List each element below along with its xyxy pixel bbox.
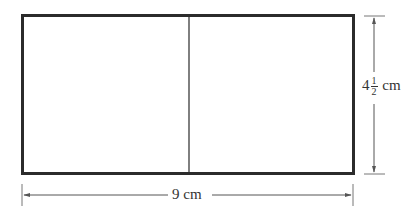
width-label: 9 cm (172, 187, 202, 202)
height-label: 412 cm (361, 76, 402, 97)
height-denominator: 2 (371, 87, 378, 97)
rectangle-diagram (0, 0, 419, 215)
outer-rectangle (23, 16, 354, 174)
height-whole: 4 (362, 77, 370, 93)
height-unit: cm (382, 77, 400, 93)
height-fraction: 12 (371, 76, 378, 97)
